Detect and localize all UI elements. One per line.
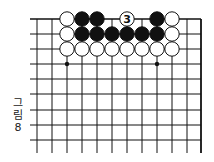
white-stone	[165, 12, 179, 26]
black-stone	[75, 27, 89, 41]
white-stone	[60, 12, 74, 26]
star-point	[65, 62, 69, 66]
caption-number: 8	[10, 122, 26, 134]
black-stone	[105, 27, 119, 41]
black-stone	[150, 27, 164, 41]
black-stone	[90, 27, 104, 41]
figure-caption: 그 림 8	[10, 98, 26, 134]
go-board: 3	[0, 0, 214, 162]
black-stone	[90, 12, 104, 26]
white-stone	[120, 42, 134, 56]
black-stone	[120, 27, 134, 41]
white-stone	[105, 42, 119, 56]
move-number-label: 3	[123, 13, 131, 26]
white-stone	[60, 42, 74, 56]
white-stone	[165, 27, 179, 41]
black-stone	[150, 12, 164, 26]
white-stone	[165, 42, 179, 56]
white-stone	[60, 27, 74, 41]
white-stone	[90, 42, 104, 56]
white-stone	[75, 42, 89, 56]
white-stone	[150, 42, 164, 56]
white-stone	[135, 42, 149, 56]
black-stone	[75, 12, 89, 26]
black-stone	[135, 27, 149, 41]
star-point	[155, 62, 159, 66]
